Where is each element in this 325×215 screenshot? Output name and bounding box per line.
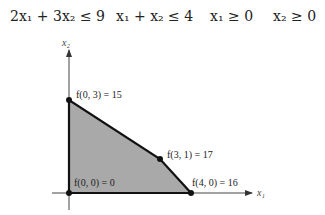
x-axis-label: x₁ — [256, 187, 265, 198]
label-vertex-0-3: f(0, 3) = 15 — [76, 89, 122, 101]
feasible-region-diagram: f(0, 3) = 15 f(3, 1) = 17 f(4, 0) = 16 f… — [0, 0, 325, 215]
label-vertex-3-1: f(3, 1) = 17 — [167, 149, 213, 161]
vertex-0-0 — [66, 190, 72, 196]
vertex-3-1 — [157, 156, 163, 162]
label-vertex-0-0: f(0, 0) = 0 — [74, 177, 115, 189]
vertex-4-0 — [188, 190, 194, 196]
vertex-0-3 — [66, 97, 72, 103]
y-axis-label: x₂ — [61, 37, 70, 48]
label-vertex-4-0: f(4, 0) = 16 — [192, 177, 238, 189]
